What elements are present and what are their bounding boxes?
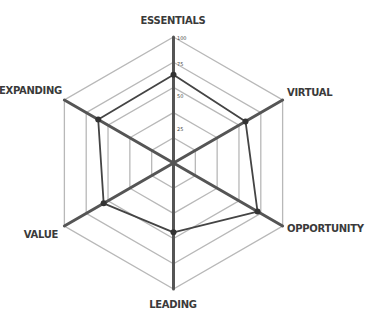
axis-label-virtual: VIRTUAL [287, 87, 333, 98]
data-point [255, 209, 261, 215]
tick-label-50: 50 [177, 93, 183, 99]
axis-line [64, 163, 173, 226]
axis-line [64, 100, 173, 163]
data-point [243, 118, 249, 124]
data-point [95, 117, 101, 123]
data-point [101, 200, 107, 206]
axis-label-essentials: ESSENTIALS [141, 15, 206, 26]
axis-labels: ESSENTIALS VIRTUAL OPPORTUNITY LEADING V… [0, 15, 365, 310]
axis-label-value: VALUE [24, 229, 59, 240]
radar-chart: 100 75 50 25 ESSENTIALS VIRTUAL OPPORTUN… [0, 0, 365, 327]
tick-label-75: 75 [177, 61, 183, 67]
tick-label-25: 25 [177, 126, 183, 132]
axis-label-opportunity: OPPORTUNITY [287, 223, 365, 234]
tick-label-100: 100 [177, 35, 187, 41]
data-point [171, 72, 177, 78]
axis-label-leading: LEADING [149, 299, 197, 310]
data-point [171, 229, 177, 235]
axis-label-expanding: EXPANDING [0, 85, 62, 96]
axis-line [174, 163, 283, 226]
